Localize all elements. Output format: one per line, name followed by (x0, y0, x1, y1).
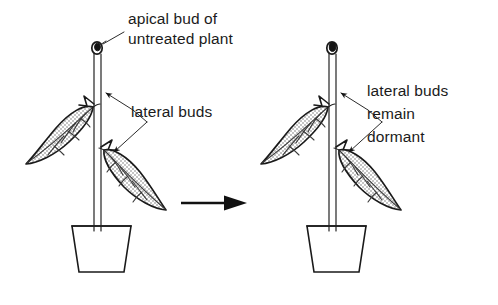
right-apical-bud (327, 42, 337, 54)
figure-root: apical bud of untreated plant lateral bu… (0, 0, 498, 305)
apical-bud-label-line1: apical bud of (128, 10, 218, 27)
dormant-label-line2: remain (367, 105, 415, 122)
apical-dominance-diagram: apical bud of untreated plant lateral bu… (0, 0, 498, 305)
dormant-label-line3: dormant (367, 128, 425, 145)
lateral-buds-label: lateral buds (131, 103, 212, 120)
left-flower-pot (72, 226, 131, 272)
dormant-label-line1: lateral buds (367, 82, 448, 99)
canvas-background (0, 0, 498, 305)
apical-bud-label-line2: untreated plant (128, 30, 234, 47)
right-flower-pot (307, 226, 366, 272)
